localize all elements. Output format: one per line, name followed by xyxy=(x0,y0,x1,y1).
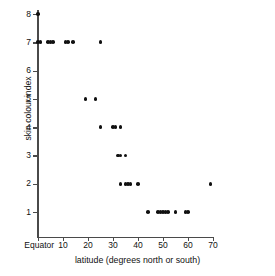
data-point xyxy=(84,97,88,101)
data-point xyxy=(119,182,123,186)
data-point xyxy=(166,210,170,214)
data-point xyxy=(66,40,70,44)
data-point xyxy=(94,97,98,101)
data-point xyxy=(36,12,40,16)
data-point xyxy=(114,125,118,129)
data-point xyxy=(99,125,103,129)
data-point xyxy=(39,40,43,44)
data-point xyxy=(71,40,75,44)
data-point xyxy=(129,182,133,186)
data-point xyxy=(186,210,190,214)
data-point xyxy=(146,210,150,214)
data-point xyxy=(136,182,140,186)
plot-data-area xyxy=(0,0,275,276)
data-point xyxy=(119,125,123,129)
scatter-plot-figure: skin colour index 12345678 Equator102030… xyxy=(0,0,275,276)
data-point xyxy=(209,182,213,186)
data-point xyxy=(124,154,128,158)
data-point xyxy=(119,154,123,158)
x-axis-title: latitude (degrees north or south) xyxy=(0,255,275,265)
data-point xyxy=(51,40,55,44)
data-point xyxy=(174,210,178,214)
data-point xyxy=(99,40,103,44)
